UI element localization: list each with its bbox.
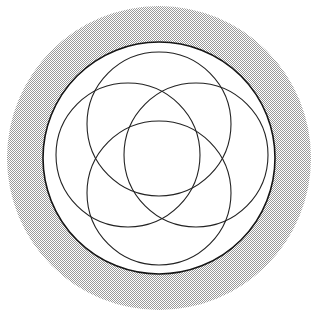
figure-root: Four overlapping circles inscribed in a … (0, 0, 321, 316)
geometric-figure-canvas (0, 0, 321, 316)
outer-bounding-circle (43, 42, 275, 274)
